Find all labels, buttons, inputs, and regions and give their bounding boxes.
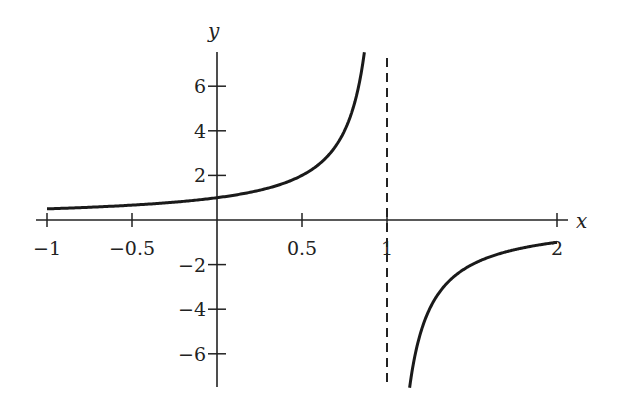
x-tick-label: 2 (551, 237, 563, 259)
y-tick-label: −2 (178, 254, 206, 276)
y-tick-label: −6 (178, 343, 206, 365)
x-tick-label: −0.5 (109, 237, 155, 259)
x-tick-label: −1 (33, 237, 61, 259)
x-tick-label: 1 (381, 237, 393, 259)
y-tick-label: 6 (194, 75, 206, 97)
y-tick-label: −4 (178, 298, 206, 320)
axes (36, 52, 568, 387)
x-tick-label: 0.5 (287, 237, 317, 259)
x-axis-label: x (576, 209, 587, 233)
y-axis-label: y (207, 19, 220, 43)
y-tick-label: 2 (194, 164, 206, 186)
curve-right-branch (410, 242, 557, 387)
y-tick-label: 4 (194, 120, 206, 142)
function-plot: −1−0.50.512642−2−4−6 x y (0, 0, 624, 406)
